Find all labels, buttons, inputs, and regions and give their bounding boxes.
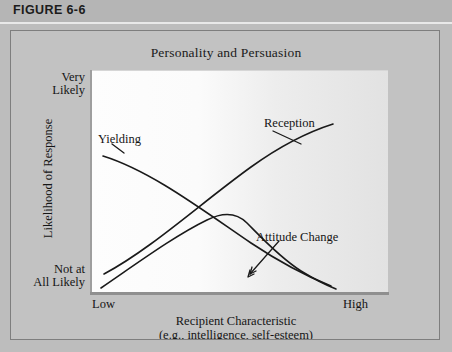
y-axis-title: Likelihood of Response <box>41 99 56 259</box>
figure-number-label: FIGURE 6-6 <box>13 3 86 17</box>
y-tick-bottom-line2: All Likely <box>33 275 85 289</box>
y-axis-tick-bottom: Not at All Likely <box>13 263 85 289</box>
chart-title: Personality and Persuasion <box>11 45 440 61</box>
series-label-yielding: Yielding <box>98 132 141 147</box>
figure-body: Personality and Persuasion Very <box>10 30 440 340</box>
y-axis-tick-top: Very Likely <box>21 71 85 97</box>
x-axis-tick-high: High <box>343 297 368 312</box>
x-axis-tick-low: Low <box>92 297 115 312</box>
series-label-reception: Reception <box>264 116 315 131</box>
x-axis-line <box>90 292 389 295</box>
y-axis-line <box>90 70 92 293</box>
y-tick-top-line1: Very <box>61 70 85 84</box>
y-tick-top-line2: Likely <box>52 83 85 97</box>
plot-area <box>91 70 388 293</box>
series-label-attitude-change: Attitude Change <box>256 230 338 245</box>
figure-root: FIGURE 6-6 Personality and Persuasion <box>0 0 452 352</box>
y-tick-bottom-line1: Not at <box>54 262 85 276</box>
x-axis-title-sub: (e.g., intelligence, self-esteem) <box>71 328 401 340</box>
figure-header-band: FIGURE 6-6 <box>0 0 452 24</box>
x-axis-title: Recipient Characteristic (e.g., intellig… <box>71 314 401 340</box>
x-axis-title-main: Recipient Characteristic <box>71 314 401 328</box>
